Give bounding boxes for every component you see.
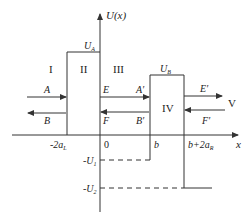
potential-barrier-diagram: U(x) x UA UB I II III IV V A B E A′ [0, 0, 250, 220]
x-axis-label: x [235, 138, 241, 150]
region-III-label: III [113, 63, 124, 75]
wave-E-label: E [102, 84, 109, 95]
region-II-label: II [80, 63, 88, 75]
barrier-right-label: UB [160, 63, 171, 75]
wave-A-label: A [43, 84, 51, 95]
wave-B-prime-label: B′ [136, 115, 145, 126]
wave-F-prime-label: F′ [201, 115, 211, 126]
x-tick-minus-2aL: -2aL [50, 139, 67, 151]
wave-F-label: F [102, 115, 110, 126]
wave-A-prime-label: A′ [135, 84, 145, 95]
x-tick-origin: 0 [104, 139, 109, 150]
y-tick-minus-U2: -U2 [83, 183, 97, 195]
x-tick-b: b [154, 139, 159, 150]
region-IV-label: IV [162, 102, 174, 114]
wave-E-prime-label: E′ [199, 83, 209, 94]
wave-B-label: B [44, 115, 50, 126]
y-axis-label: U(x) [106, 9, 126, 22]
barrier-left-label: UA [84, 40, 95, 52]
y-tick-minus-U1: -U1 [83, 155, 97, 167]
x-tick-b-plus-2aR: b+2aR [188, 139, 214, 151]
region-V-label: V [228, 97, 236, 109]
region-I-label: I [49, 63, 53, 75]
